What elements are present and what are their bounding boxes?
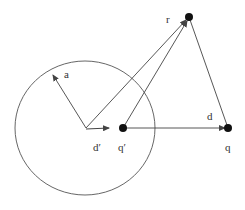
vector-a: [53, 75, 86, 128]
vector-d-prime: [86, 128, 109, 129]
label-r: r: [166, 13, 170, 25]
vector-qprime-to-r: [123, 21, 187, 128]
label-d-prime: d′: [93, 141, 101, 153]
label-q: q: [225, 141, 231, 153]
label-a: a: [64, 68, 69, 80]
label-d: d: [207, 110, 213, 122]
geometry-diagram: r a d d′ q′ q: [0, 0, 245, 210]
point-r: [185, 13, 193, 21]
vector-center-to-r: [86, 20, 186, 128]
label-q-prime: q′: [118, 141, 126, 153]
point-q: [224, 124, 232, 132]
point-q-prime: [119, 124, 127, 132]
